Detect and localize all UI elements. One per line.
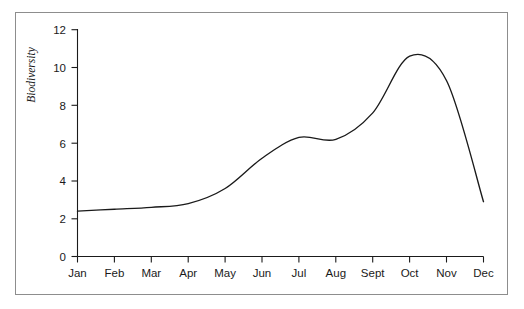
x-tick-label-sept: Sept — [361, 267, 385, 279]
y-tick-label-6: 6 — [60, 138, 66, 150]
x-tick-label-may: May — [214, 267, 236, 279]
y-tick-label-2: 2 — [60, 213, 66, 225]
x-tick-label-apr: Apr — [179, 267, 197, 279]
y-tick-label-8: 8 — [60, 100, 66, 112]
y-tick-label-10: 10 — [53, 62, 66, 74]
x-tick-marks — [78, 257, 484, 263]
x-tick-label-nov: Nov — [436, 267, 457, 279]
x-tick-label-oct: Oct — [401, 267, 420, 279]
y-tick-labels: 12 10 8 6 4 2 0 — [53, 24, 66, 263]
x-tick-labels: Jan Feb Mar Apr May Jun Jul Aug Sept Oct… — [68, 267, 494, 279]
x-tick-label-jul: Jul — [292, 267, 307, 279]
x-tick-label-jun: Jun — [253, 267, 272, 279]
y-tick-label-12: 12 — [53, 24, 66, 36]
figure-root: 12 10 8 6 4 2 0 Biodiversity Jan — [0, 0, 524, 309]
x-tick-label-mar: Mar — [141, 267, 161, 279]
y-axis-title: Biodiversity — [25, 46, 38, 102]
y-tick-marks — [72, 30, 78, 257]
x-tick-label-feb: Feb — [104, 267, 124, 279]
biodiversity-curve — [78, 54, 484, 211]
biodiversity-line-chart: 12 10 8 6 4 2 0 Biodiversity Jan — [0, 0, 524, 309]
x-tick-label-aug: Aug — [326, 267, 346, 279]
x-tick-label-dec: Dec — [473, 267, 494, 279]
x-tick-label-jan: Jan — [68, 267, 87, 279]
y-tick-label-0: 0 — [60, 251, 66, 263]
y-tick-label-4: 4 — [60, 175, 67, 187]
